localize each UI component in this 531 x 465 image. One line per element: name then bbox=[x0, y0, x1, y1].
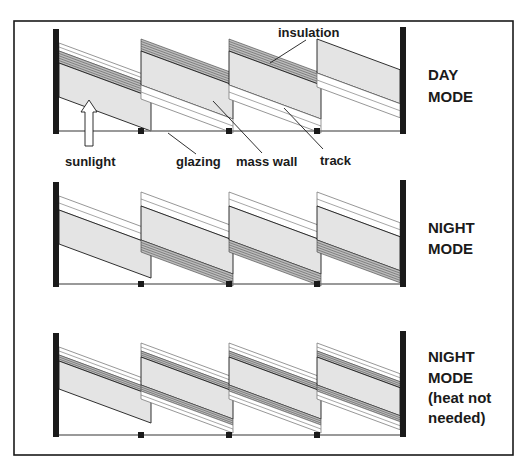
glazing-clip bbox=[226, 128, 232, 134]
row-day-mode: DAYMODE bbox=[53, 27, 473, 134]
mass-wall-label: mass wall bbox=[236, 154, 297, 169]
mode-label: DAYMODE bbox=[428, 66, 473, 105]
mode-label-line: (heat not bbox=[428, 389, 491, 406]
glazing-clip bbox=[138, 432, 144, 438]
louver-slat bbox=[317, 343, 400, 430]
insulation-label: insulation bbox=[278, 25, 339, 40]
right-wall bbox=[400, 180, 406, 287]
louver-slat bbox=[229, 192, 321, 286]
right-wall bbox=[400, 331, 406, 437]
left-wall bbox=[53, 333, 59, 437]
louver-slat bbox=[317, 192, 400, 283]
mode-label-line: MODE bbox=[428, 369, 473, 386]
mode-label-line: DAY bbox=[428, 66, 458, 83]
louver-slat bbox=[317, 39, 400, 118]
left-wall bbox=[53, 29, 59, 134]
mode-label: NIGHTMODE(heat notneeded) bbox=[428, 348, 491, 426]
glazing-clip bbox=[138, 281, 144, 287]
louver-slat bbox=[141, 343, 233, 433]
left-wall bbox=[53, 182, 59, 287]
louver-slat bbox=[59, 43, 151, 131]
mode-label-line: MODE bbox=[428, 88, 473, 105]
louver-slat bbox=[59, 196, 151, 278]
glazing-clip bbox=[138, 128, 144, 134]
insulation-leader bbox=[270, 40, 306, 63]
track-label: track bbox=[320, 153, 352, 168]
louver-slat bbox=[59, 347, 151, 423]
sunlight-label: sunlight bbox=[65, 154, 116, 169]
glazing-clip bbox=[226, 432, 232, 438]
row-night-mode-heat-not-needed: NIGHTMODE(heat notneeded) bbox=[53, 331, 491, 438]
right-wall bbox=[400, 27, 406, 134]
louver-slat bbox=[229, 343, 321, 433]
glazing-clip bbox=[314, 432, 320, 438]
row-night-mode: NIGHTMODE bbox=[53, 180, 475, 287]
louver-slat bbox=[229, 39, 321, 133]
mode-label-line: NIGHT bbox=[428, 219, 475, 236]
louver-slat bbox=[141, 192, 233, 286]
glazing-clip bbox=[314, 128, 320, 134]
mode-label: NIGHTMODE bbox=[428, 219, 475, 257]
mode-label-line: NIGHT bbox=[428, 348, 475, 365]
louver-slat bbox=[141, 39, 233, 133]
glazing-leader bbox=[168, 133, 196, 154]
mode-label-line: MODE bbox=[428, 240, 473, 257]
glazing-label: glazing bbox=[176, 154, 221, 169]
glazing-clip bbox=[226, 281, 232, 287]
louvered-mass-wall-diagram: DAYMODENIGHTMODENIGHTMODE(heat notneeded… bbox=[0, 0, 531, 465]
glazing-clip bbox=[314, 281, 320, 287]
mode-label-line: needed) bbox=[428, 409, 486, 426]
